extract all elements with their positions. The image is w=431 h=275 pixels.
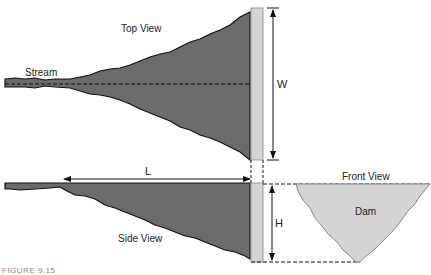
top-view-dam [251, 8, 263, 160]
dam-reservoir-diagram: W L H Top View Stream Side View Front Vi… [0, 0, 431, 275]
front-view-dam [296, 184, 430, 262]
top-view-reservoir [5, 12, 250, 160]
side-view-dam [251, 183, 263, 262]
side-view-label: Side View [118, 233, 163, 244]
front-view-label: Front View [342, 171, 390, 182]
side-view-reservoir [5, 183, 250, 259]
length-label: L [145, 165, 151, 177]
figure-caption: FIGURE 9.15 [2, 266, 56, 275]
stream-label: Stream [25, 67, 57, 78]
top-view-label: Top View [121, 23, 162, 34]
dam-label: Dam [355, 206, 376, 217]
width-label: W [277, 78, 288, 90]
height-label: H [275, 217, 283, 229]
